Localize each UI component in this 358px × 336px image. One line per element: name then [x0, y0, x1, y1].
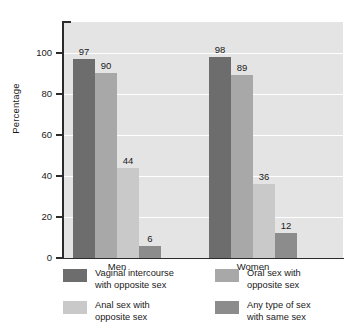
legend-label-line-1: Oral sex with [247, 268, 301, 280]
legend-item[interactable]: Anal sex withopposite sex [63, 300, 150, 323]
bar [275, 233, 297, 258]
legend-color-swatch [215, 301, 239, 314]
bar [209, 57, 231, 258]
legend-label: Vaginal intercoursewith opposite sex [95, 268, 174, 291]
bar [117, 168, 139, 258]
bar-value-label: 36 [247, 172, 281, 182]
legend-color-swatch [215, 269, 239, 282]
y-tick-mark [56, 134, 63, 136]
y-tick-mark [56, 216, 63, 218]
legend-item[interactable]: Any type of sexwith same sex [215, 300, 311, 323]
legend-item[interactable]: Oral sex withopposite sex [215, 268, 301, 291]
bar-chart-figure: Percentage 020406080100 979044698893612 … [0, 0, 358, 336]
y-axis-top-cap [62, 21, 71, 23]
legend-label-line-1: Vaginal intercourse [95, 268, 174, 280]
legend-label: Any type of sexwith same sex [247, 300, 311, 323]
bar [73, 59, 95, 258]
bar-value-label: 89 [225, 63, 259, 73]
bar-value-label: 90 [89, 61, 123, 71]
y-tick-label: 80 [12, 89, 52, 99]
y-axis-spine [62, 21, 64, 259]
y-tick-label: 40 [12, 171, 52, 181]
legend-label-line-2: with opposite sex [95, 280, 174, 292]
legend-label-line-2: opposite sex [247, 280, 301, 292]
y-tick-label: 0 [12, 253, 52, 263]
y-axis-title: Percentage [10, 64, 21, 154]
legend-label-line-1: Anal sex with [95, 300, 150, 312]
legend-label-line-2: with same sex [247, 312, 311, 324]
chart-legend: Vaginal intercoursewith opposite sexOral… [63, 268, 353, 330]
legend-label: Anal sex withopposite sex [95, 300, 150, 323]
y-tick-mark [56, 93, 63, 95]
bar-value-label: 97 [67, 47, 101, 57]
bar-value-label: 44 [111, 156, 145, 166]
y-tick-label: 100 [12, 48, 52, 58]
y-tick-label: 20 [12, 212, 52, 222]
bar [231, 75, 253, 258]
bar [139, 246, 161, 258]
bar [95, 73, 117, 258]
y-tick-mark [56, 175, 63, 177]
bar-value-label: 98 [203, 45, 237, 55]
legend-label-line-1: Any type of sex [247, 300, 311, 312]
y-tick-mark [56, 257, 63, 259]
y-tick-mark [56, 52, 63, 54]
legend-item[interactable]: Vaginal intercoursewith opposite sex [63, 268, 174, 291]
legend-label: Oral sex withopposite sex [247, 268, 301, 291]
bar-value-label: 12 [269, 221, 303, 231]
legend-label-line-2: opposite sex [95, 312, 150, 324]
y-tick-label: 60 [12, 130, 52, 140]
legend-color-swatch [63, 301, 87, 314]
legend-color-swatch [63, 269, 87, 282]
bar-value-label: 6 [133, 234, 167, 244]
